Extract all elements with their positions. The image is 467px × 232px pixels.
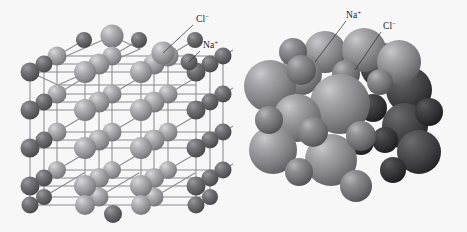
ion-sodium (21, 139, 40, 158)
ion-chloride (74, 61, 96, 83)
ion-chloride (131, 195, 151, 215)
ion-sodium (104, 205, 122, 223)
sphere-sodium (286, 55, 316, 85)
ion-chloride (74, 175, 96, 197)
ion-sodium (21, 63, 40, 82)
ion-chloride (130, 175, 152, 197)
sphere-sodium (415, 98, 443, 126)
ion-sodium (187, 101, 206, 120)
ion-sodium (188, 197, 205, 214)
ion-chloride (130, 99, 152, 121)
sphere-sodium (372, 127, 398, 153)
sphere-sodium (380, 157, 406, 183)
ball-and-stick-panel: Cl− Na+ (0, 0, 234, 232)
ion-chloride (75, 195, 95, 215)
ion-sodium (21, 101, 40, 120)
ion-sodium (22, 197, 39, 214)
ion-chloride (74, 137, 96, 159)
sphere-sodium (346, 121, 376, 151)
sphere-sodium (255, 106, 283, 134)
ion-chloride (130, 61, 152, 83)
space-filling-panel: Na+ Cl− (233, 0, 467, 232)
sphere-sodium (367, 69, 393, 95)
nacl-structure-figure: Cl− Na+ (0, 0, 467, 232)
ion-sodium (187, 139, 206, 158)
ion-sodium (202, 189, 218, 205)
sphere-sodium (285, 158, 313, 186)
ion-sodium (187, 32, 203, 48)
ion-sodium (187, 177, 206, 196)
ion-sodium (36, 189, 52, 205)
ion-chloride (130, 137, 152, 159)
sphere-sodium (298, 117, 328, 147)
ion-chloride (74, 99, 96, 121)
ion-sodium (131, 32, 147, 48)
ion-chloride (101, 25, 124, 48)
sphere-sodium (340, 170, 372, 202)
ion-sodium (21, 177, 40, 196)
ion-sodium (76, 32, 92, 48)
